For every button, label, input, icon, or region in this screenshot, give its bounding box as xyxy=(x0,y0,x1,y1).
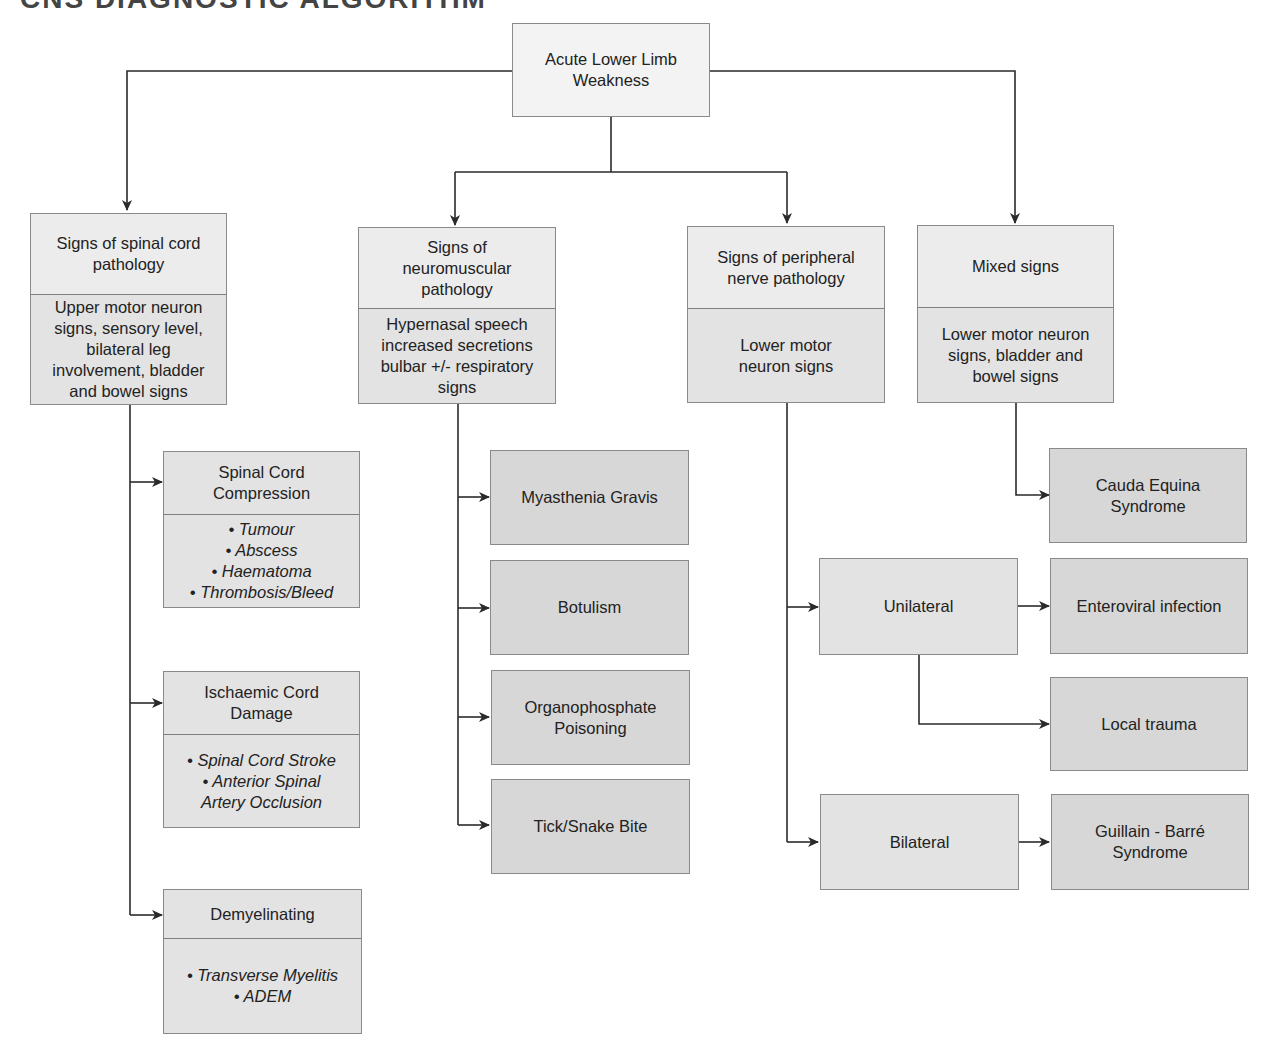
outcome-demyelinating: Demyelinating • Transverse Myelitis • AD… xyxy=(163,889,362,1034)
list-item: • Tumour xyxy=(229,519,295,540)
branch-label: Bilateral xyxy=(890,832,950,853)
category-header: Signs of spinal cord pathology xyxy=(31,214,226,294)
category-detail: Lower motor neuron signs xyxy=(688,308,884,402)
category-detail: Lower motor neuron signs, bladder and bo… xyxy=(918,307,1113,402)
branch-unilateral: Unilateral xyxy=(819,558,1018,655)
list-item: • Thrombosis/Bleed xyxy=(190,582,333,603)
category-detail: Upper motor neuron signs, sensory level,… xyxy=(31,294,226,404)
outcome-label: Guillain - Barré Syndrome xyxy=(1095,821,1205,863)
root-node: Acute Lower Limb Weakness xyxy=(512,23,710,117)
outcome-enteroviral-infection: Enteroviral infection xyxy=(1050,558,1248,654)
list-item: • Abscess xyxy=(225,540,297,561)
outcome-label: Enteroviral infection xyxy=(1077,596,1222,617)
outcome-label: Demyelinating xyxy=(164,890,361,938)
outcome-ischaemic-cord-damage: Ischaemic Cord Damage • Spinal Cord Stro… xyxy=(163,671,360,828)
neuromuscular-category: Signs of neuromuscular pathology Hyperna… xyxy=(358,227,556,404)
category-detail: Hypernasal speech increased secretions b… xyxy=(359,308,555,403)
category-header: Signs of peripheral nerve pathology xyxy=(688,227,884,308)
outcome-local-trauma: Local trauma xyxy=(1050,677,1248,771)
mixed-signs-category: Mixed signs Lower motor neuron signs, bl… xyxy=(917,225,1114,403)
outcome-label: Cauda Equina Syndrome xyxy=(1096,475,1201,517)
branch-label: Unilateral xyxy=(884,596,954,617)
outcome-guillain-barre-syndrome: Guillain - Barré Syndrome xyxy=(1051,794,1249,890)
root-label: Acute Lower Limb Weakness xyxy=(513,24,709,116)
list-item: • Spinal Cord Stroke xyxy=(187,750,336,771)
outcome-label: Botulism xyxy=(558,597,621,618)
peripheral-nerve-category: Signs of peripheral nerve pathology Lowe… xyxy=(687,226,885,403)
outcome-myasthenia-gravis: Myasthenia Gravis xyxy=(490,450,689,545)
branch-bilateral: Bilateral xyxy=(820,794,1019,890)
outcome-items: • Spinal Cord Stroke • Anterior Spinal A… xyxy=(164,734,359,827)
category-header: Signs of neuromuscular pathology xyxy=(359,228,555,308)
outcome-botulism: Botulism xyxy=(490,560,689,655)
outcome-label: Organophosphate Poisoning xyxy=(524,697,656,739)
list-item: Artery Occlusion xyxy=(201,792,322,813)
outcome-items: • Tumour • Abscess • Haematoma • Thrombo… xyxy=(164,514,359,607)
outcome-spinal-cord-compression: Spinal Cord Compression • Tumour • Absce… xyxy=(163,451,360,608)
list-item: • ADEM xyxy=(234,986,291,1007)
spinal-cord-category: Signs of spinal cord pathology Upper mot… xyxy=(30,213,227,405)
outcome-items: • Transverse Myelitis • ADEM xyxy=(164,938,361,1033)
outcome-label: Tick/Snake Bite xyxy=(533,816,647,837)
list-item: • Haematoma xyxy=(211,561,311,582)
outcome-label: Myasthenia Gravis xyxy=(521,487,658,508)
list-item: • Anterior Spinal xyxy=(203,771,321,792)
list-item: • Transverse Myelitis xyxy=(187,965,338,986)
outcome-label: Local trauma xyxy=(1101,714,1196,735)
outcome-tick-snake-bite: Tick/Snake Bite xyxy=(491,779,690,874)
outcome-cauda-equina-syndrome: Cauda Equina Syndrome xyxy=(1049,448,1247,543)
outcome-label: Spinal Cord Compression xyxy=(164,452,359,514)
outcome-organophosphate-poisoning: Organophosphate Poisoning xyxy=(491,670,690,765)
category-header: Mixed signs xyxy=(918,226,1113,307)
outcome-label: Ischaemic Cord Damage xyxy=(164,672,359,734)
